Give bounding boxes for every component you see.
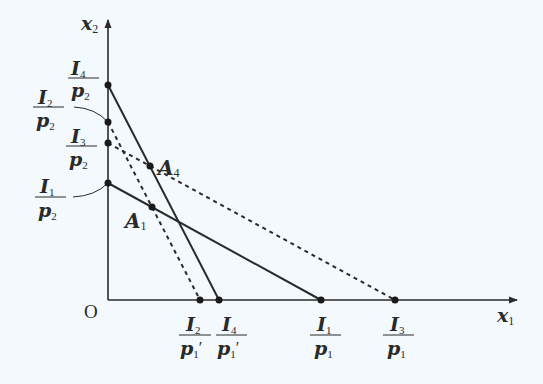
svg-text:I3: I3 <box>389 313 405 336</box>
diagram-svg: x2 x1 O I4 p2 I2 p2 I3 p2 I1 p2 <box>0 0 543 384</box>
svg-text:I1: I1 <box>39 175 54 198</box>
point-I3-p2 <box>105 140 112 147</box>
svg-text:I2: I2 <box>37 86 52 109</box>
svg-text:p1: p1 <box>387 337 406 360</box>
label-A1: A1 <box>123 209 147 233</box>
budget-line-diagram: x2 x1 O I4 p2 I2 p2 I3 p2 I1 p2 <box>0 0 543 384</box>
point-I2-p2 <box>105 119 112 126</box>
point-I1-p2 <box>105 180 112 187</box>
leader-I1-p2 <box>73 183 108 197</box>
point-I3-p1 <box>392 297 399 304</box>
label-I1-p1: I1 p1 <box>310 313 341 360</box>
point-I2-p1prime <box>197 297 204 304</box>
svg-text:p2: p2 <box>69 148 88 171</box>
svg-text:p1′: p1′ <box>217 337 239 360</box>
svg-text:p1: p1 <box>314 337 333 360</box>
point-A4 <box>147 163 154 170</box>
origin-label: O <box>84 301 98 322</box>
point-I4-p1prime <box>216 297 223 304</box>
svg-text:I4: I4 <box>221 313 237 336</box>
svg-text:p1′: p1′ <box>180 337 202 360</box>
point-I4-p2 <box>105 82 112 89</box>
svg-text:I3: I3 <box>70 125 86 148</box>
point-I1-p1 <box>318 297 325 304</box>
svg-text:p2: p2 <box>38 199 57 222</box>
label-I4-p2: I4 p2 <box>68 57 99 102</box>
point-A1 <box>149 204 156 211</box>
x-axis-label: x1 <box>496 304 514 328</box>
leader-I2-p2 <box>74 107 108 122</box>
svg-text:I2: I2 <box>185 313 200 336</box>
svg-text:I1: I1 <box>316 313 331 336</box>
label-I2-p1prime: I2 p1′ <box>179 313 211 360</box>
svg-text:p2: p2 <box>36 109 55 132</box>
label-I1-p2: I1 p2 <box>35 175 66 222</box>
label-A4: A4 <box>156 156 180 180</box>
svg-text:I4: I4 <box>70 57 86 80</box>
label-I3-p1: I3 p1 <box>383 313 414 360</box>
label-I2-p2: I2 p2 <box>33 86 64 132</box>
budget-line-I2 <box>108 122 200 300</box>
svg-text:p2: p2 <box>71 79 90 102</box>
label-I4-p1prime: I4 p1′ <box>216 313 247 360</box>
y-axis-label: x2 <box>80 12 98 36</box>
label-I3-p2: I3 p2 <box>66 125 97 171</box>
